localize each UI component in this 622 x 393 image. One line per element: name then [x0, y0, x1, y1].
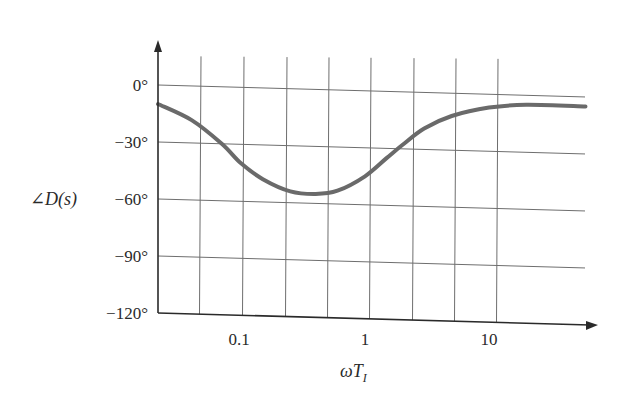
grid [158, 56, 585, 322]
y-tick-label: −90° [115, 247, 148, 266]
y-label-arg: (s) [58, 189, 77, 210]
grid-line-v [243, 57, 245, 316]
bode-phase-chart: 0°−30°−60°−90°−120° 0.1110 ∠D(s) ωTI [0, 0, 622, 393]
y-tick-label: 0° [133, 76, 148, 95]
x-tick-label: 1 [361, 330, 370, 349]
phase-curve [158, 104, 585, 194]
x-axis-arrow-icon [586, 321, 598, 330]
y-tick-label: −60° [115, 190, 148, 209]
grid-line-v [286, 57, 288, 317]
x-axis-label: ωTI [340, 361, 368, 385]
x-tick-labels: 0.1110 [228, 330, 497, 349]
x-axis [158, 313, 590, 325]
grid-line-h [158, 199, 585, 211]
y-tick-label: −120° [106, 304, 148, 323]
phase-curve-line [158, 104, 585, 194]
x-tick-label: 0.1 [228, 330, 249, 349]
grid-line-v [455, 59, 457, 322]
y-axis-label: ∠D(s) [30, 189, 77, 210]
grid-line-v [370, 58, 372, 319]
axes [154, 40, 598, 330]
grid-line-v [328, 57, 330, 317]
grid-line-v [413, 58, 415, 320]
grid-line-v [200, 56, 202, 314]
grid-line-v [497, 59, 499, 323]
grid-line-h [158, 85, 585, 97]
y-tick-label: −30° [115, 133, 148, 152]
y-axis-arrow-icon [154, 40, 162, 52]
x-label-subscript: I [362, 371, 368, 385]
y-tick-labels: 0°−30°−60°−90°−120° [106, 76, 148, 323]
y-label-angle-D: ∠D [30, 189, 58, 209]
x-tick-label: 10 [481, 330, 498, 349]
grid-line-h [158, 256, 585, 268]
x-label-omega: ω [340, 361, 353, 381]
